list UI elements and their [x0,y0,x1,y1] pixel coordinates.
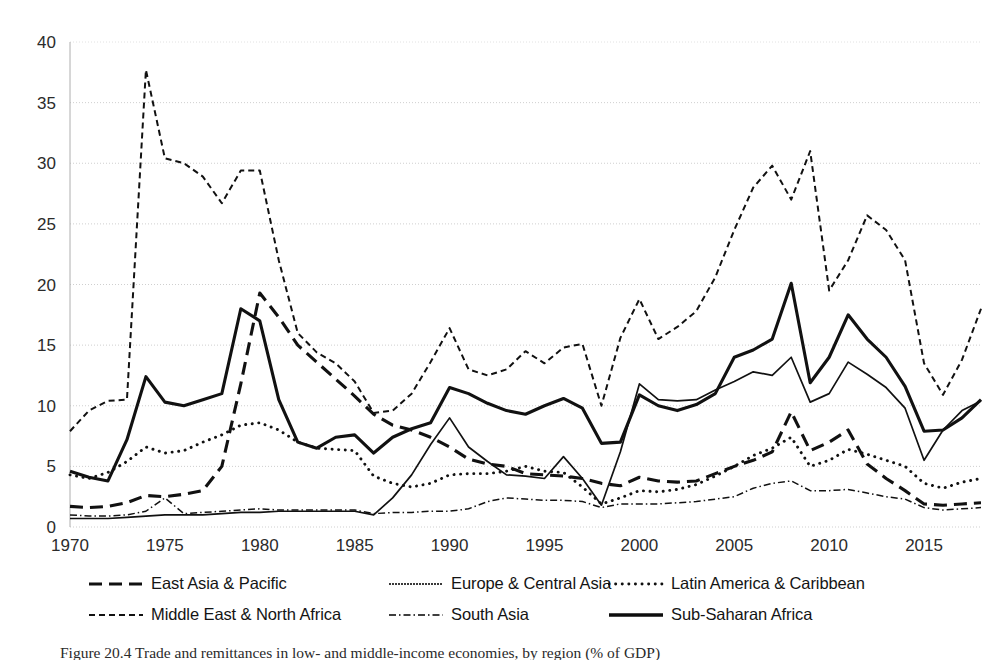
y-axis-tick-label: 30 [37,154,56,173]
legend-item[interactable]: Europe & Central Asia [388,568,608,599]
legend-line-swatch-icon [88,608,144,622]
legend-item-label: East Asia & Pacific [151,574,287,593]
x-axis-tick-label: 2005 [715,536,753,555]
legend-line-swatch-icon [608,577,664,591]
figure-caption-text: Figure 20.4 Trade and remittances in low… [0,645,995,660]
line-chart: 0510152025303540197019751980198519901995… [0,0,995,570]
x-axis-tick-label: 1995 [526,536,564,555]
legend-item[interactable]: South Asia [388,599,608,630]
legend-line-swatch-icon [388,577,444,591]
legend-line-swatch-icon [388,608,444,622]
legend-row: Middle East & North AfricaSouth AsiaSub-… [0,599,995,630]
x-axis-tick-label: 1975 [146,536,184,555]
legend-item[interactable]: East Asia & Pacific [88,568,388,599]
legend-item-label: Middle East & North Africa [151,605,341,624]
legend-item[interactable]: Latin America & Caribbean [608,568,908,599]
chart-legend: East Asia & PacificEurope & Central Asia… [0,568,995,630]
x-axis-tick-label: 1980 [241,536,279,555]
x-axis-tick-label: 2010 [810,536,848,555]
legend-item[interactable]: Sub-Saharan Africa [608,599,908,630]
series-line-europe-central-asia [70,357,981,518]
legend-line-swatch-icon [608,608,664,622]
legend-item-label: South Asia [451,605,529,624]
x-axis-tick-label: 1990 [431,536,469,555]
legend-item[interactable]: Middle East & North Africa [88,599,388,630]
y-axis-tick-label: 35 [37,94,56,113]
x-axis-tick-label: 1985 [336,536,374,555]
x-axis-tick-label: 1970 [51,536,89,555]
y-axis-tick-label: 0 [47,518,56,537]
y-axis-tick-label: 15 [37,336,56,355]
legend-row: East Asia & PacificEurope & Central Asia… [0,568,995,599]
y-axis-tick-label: 40 [37,33,56,52]
legend-item-label: Europe & Central Asia [451,574,611,593]
series-line-latin-america-caribbean [70,423,981,504]
series-line-middle-east-north-africa [70,70,981,431]
x-axis-tick-label: 2000 [620,536,658,555]
legend-item-label: Latin America & Caribbean [671,574,865,593]
y-axis-tick-label: 10 [37,397,56,416]
x-axis-tick-label: 2015 [905,536,943,555]
y-axis-tick-label: 20 [37,276,56,295]
legend-item-label: Sub-Saharan Africa [671,605,812,624]
legend-line-swatch-icon [88,577,144,591]
chart-plot-area: 0510152025303540197019751980198519901995… [0,0,995,570]
y-axis-tick-label: 5 [47,457,56,476]
y-axis-tick-label: 25 [37,215,56,234]
figure-container: 0510152025303540197019751980198519901995… [0,0,995,660]
figure-caption: Figure 20.4 Trade and remittances in low… [0,645,995,660]
